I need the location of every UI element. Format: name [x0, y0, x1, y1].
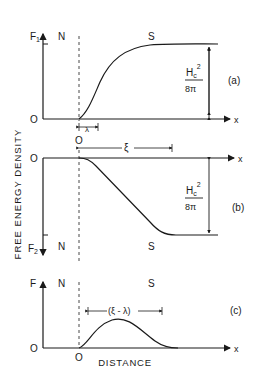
region-s-label: S [148, 241, 155, 252]
xi-label: ξ [124, 142, 129, 154]
origin-y-label: O [30, 343, 38, 354]
origin-y-label: O [30, 153, 38, 164]
lambda-label: λ [85, 125, 89, 134]
region-s-label: S [148, 278, 155, 289]
panel-label-c: (c) [230, 305, 242, 316]
region-n-label: N [58, 241, 65, 252]
x-axis-label: x [234, 115, 239, 125]
hc2-over-8pi-label: Hc2 8π [185, 63, 203, 94]
free-energy-diagram: FREE ENERGY DENSITY F1 N S O O x λ Hc2 8… [0, 0, 256, 379]
panel-b: ξ O x F2 N S Hc2 8π (b) [28, 142, 244, 262]
region-n-label: N [58, 278, 65, 289]
svg-text:Hc2: Hc2 [186, 181, 201, 197]
free-energy-curve [79, 44, 218, 119]
panel-a: F1 N S O O x λ Hc2 8π (a) [30, 31, 240, 146]
free-energy-curve [79, 158, 218, 235]
free-energy-curve [79, 319, 178, 348]
xi-minus-lambda-label: (ξ - λ) [108, 306, 131, 316]
region-n-label: N [58, 31, 65, 42]
y-axis-title: FREE ENERGY DENSITY [12, 129, 23, 260]
panel-label-a: (a) [228, 75, 240, 86]
panel-c: (ξ - λ) F N S O O x (c) [30, 278, 242, 363]
hc2-over-8pi-label: Hc2 8π [185, 181, 203, 212]
origin-x-label: O [75, 352, 83, 363]
svg-text:Hc2: Hc2 [186, 63, 201, 79]
svg-text:8π: 8π [185, 202, 196, 212]
x-axis-title: DISTANCE [98, 357, 152, 368]
panel-label-b: (b) [232, 202, 244, 213]
svg-text:8π: 8π [185, 84, 196, 94]
origin-x-label: O [75, 135, 83, 146]
origin-y-label: O [30, 114, 38, 125]
y-axis-label: F2 [28, 243, 38, 255]
y-axis-label: F1 [30, 31, 40, 43]
x-axis-label: x [234, 344, 239, 354]
y-axis-label: F [30, 278, 36, 289]
region-s-label: S [148, 31, 155, 42]
x-axis-label: x [238, 154, 243, 164]
